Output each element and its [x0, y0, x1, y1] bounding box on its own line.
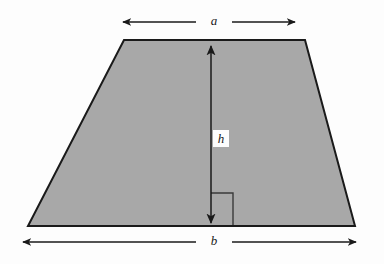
trapezoid-diagram-canvas [0, 0, 384, 264]
bottom-base-label: b [196, 234, 232, 247]
height-label: h [213, 130, 229, 147]
trapezoid-figure: a h b [0, 0, 384, 264]
top-base-label: a [196, 14, 232, 27]
trapezoid-shape [28, 40, 355, 226]
